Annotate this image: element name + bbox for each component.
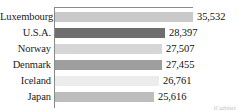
bar-track: 27,455: [55, 57, 238, 73]
category-label: U.S.A.: [0, 25, 51, 41]
bar-value-label: 27,507: [166, 41, 194, 57]
bar-segment: [55, 76, 159, 86]
bar-track: 35,532: [55, 9, 238, 25]
chart-bar-row: Luxembourg35,532: [0, 9, 238, 25]
chart-bar-row: Japan25,616: [0, 89, 238, 105]
bar-segment: [55, 28, 165, 38]
bar-track: 25,616: [55, 89, 238, 105]
bar-track: 28,397: [55, 25, 238, 41]
category-label: Iceland: [0, 73, 51, 89]
category-label: Denmark: [0, 57, 51, 73]
bar-segment: [55, 12, 193, 22]
bar-segment: [55, 60, 162, 70]
category-label: Japan: [0, 89, 51, 105]
bar-segment: [55, 44, 162, 54]
chart-bar-row: Norway27,507: [0, 41, 238, 57]
bar-value-label: 25,616: [158, 89, 186, 105]
category-label: Norway: [0, 41, 51, 57]
bar-value-label: 27,455: [166, 57, 194, 73]
bar-track: 27,507: [55, 41, 238, 57]
chart-bar-rows: Luxembourg35,532U.S.A.28,397Norway27,507…: [0, 9, 238, 105]
chart-bar-row: Iceland26,761: [0, 73, 238, 89]
bar-value-label: 28,397: [169, 25, 197, 41]
bar-track: 26,761: [55, 73, 238, 89]
bar-segment: [55, 92, 154, 102]
chart-bar-row: Denmark27,455: [0, 57, 238, 73]
bar-chart: Luxembourg35,532U.S.A.28,397Norway27,507…: [0, 0, 238, 111]
bar-value-label: 26,761: [163, 73, 191, 89]
watermark-label: iCabinet: [214, 105, 236, 111]
category-label: Luxembourg: [0, 9, 51, 25]
bar-value-label: 35,532: [197, 9, 225, 25]
chart-bar-row: U.S.A.28,397: [0, 25, 238, 41]
chart-top-axis-line: [54, 7, 193, 8]
